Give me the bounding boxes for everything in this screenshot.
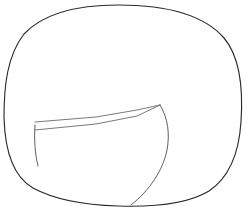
canvas-background [0, 0, 248, 211]
line-drawing-figure [0, 0, 248, 211]
drawing-canvas [0, 0, 248, 211]
